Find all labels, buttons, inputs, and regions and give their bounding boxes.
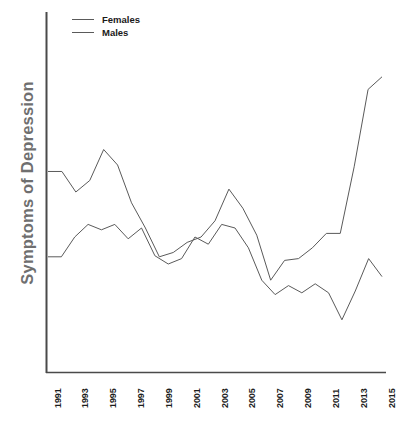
series-line-females bbox=[48, 77, 382, 280]
series-line-males bbox=[48, 224, 382, 319]
x-tick-label-1995: 1995 bbox=[108, 388, 118, 408]
x-tick-label-2005: 2005 bbox=[247, 388, 257, 408]
legend: Females Males bbox=[72, 13, 140, 39]
legend-label-males: Males bbox=[102, 26, 128, 39]
x-tick-label-2015: 2015 bbox=[387, 388, 397, 408]
x-tick-label-2003: 2003 bbox=[220, 388, 230, 408]
x-tick-label-1991: 1991 bbox=[53, 388, 63, 408]
plot-area bbox=[0, 0, 407, 422]
x-tick-label-2011: 2011 bbox=[331, 389, 341, 408]
legend-swatch-males-icon bbox=[72, 32, 94, 33]
x-tick-label-2013: 2013 bbox=[359, 388, 369, 408]
x-tick-label-1993: 1993 bbox=[80, 388, 90, 408]
legend-label-females: Females bbox=[102, 13, 140, 26]
x-tick-label-1997: 1997 bbox=[136, 388, 146, 408]
depression-line-chart: Symptoms of Depression Females Males 199… bbox=[0, 0, 407, 422]
legend-item-males: Males bbox=[72, 26, 140, 39]
x-tick-label-1999: 1999 bbox=[164, 388, 174, 408]
x-tick-label-2007: 2007 bbox=[275, 388, 285, 408]
legend-item-females: Females bbox=[72, 13, 140, 26]
x-tick-label-2009: 2009 bbox=[303, 388, 313, 408]
x-tick-label-2001: 2001 bbox=[192, 388, 202, 408]
legend-swatch-females-icon bbox=[72, 19, 94, 20]
